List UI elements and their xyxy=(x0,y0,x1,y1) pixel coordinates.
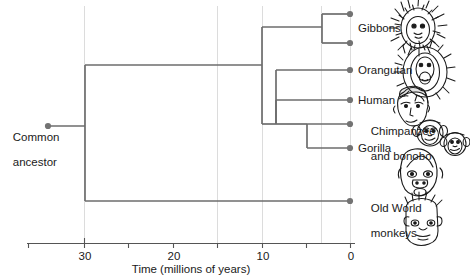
axis-tick-label-10: 10 xyxy=(248,250,278,262)
tip-label-old-world-line1: Old World xyxy=(371,202,422,214)
dot-orangutan xyxy=(347,67,353,73)
dot-old-world-monkeys xyxy=(347,198,353,204)
common-ancestor-label: Common ancestor xyxy=(0,118,45,181)
tip-label-human: Human xyxy=(358,94,395,107)
phylogenetic-tree-figure: Common ancestor Gibbons Orangutan Human … xyxy=(0,0,470,277)
dot-gibbon-b xyxy=(347,40,353,46)
dot-chimpanzee xyxy=(347,121,353,127)
tip-label-old-world-monkeys: Old World monkeys xyxy=(358,189,422,252)
dot-human xyxy=(347,97,353,103)
dot-gorilla xyxy=(347,145,353,151)
common-ancestor-label-line1: Common xyxy=(13,131,60,143)
axis-title: Time (millions of years) xyxy=(41,263,341,275)
axis-tick-label-0: 0 xyxy=(336,250,366,262)
x-axis xyxy=(27,238,355,248)
dot-common-ancestor xyxy=(45,123,51,129)
tree-branches xyxy=(48,14,349,201)
dot-gibbon-a xyxy=(347,11,353,17)
tip-label-orangutan: Orangutan xyxy=(358,64,412,77)
tip-label-gorilla: Gorilla xyxy=(358,142,391,155)
tip-label-chimpanzee-line1: Chimpanzee xyxy=(371,125,436,137)
common-ancestor-label-line2: ancestor xyxy=(13,156,57,168)
tip-dots xyxy=(45,11,353,204)
tip-label-gibbons: Gibbons xyxy=(358,22,401,35)
axis-tick-label-20: 20 xyxy=(159,250,189,262)
tip-label-old-world-line2: monkeys xyxy=(371,227,417,239)
axis-tick-label-30: 30 xyxy=(70,250,100,262)
